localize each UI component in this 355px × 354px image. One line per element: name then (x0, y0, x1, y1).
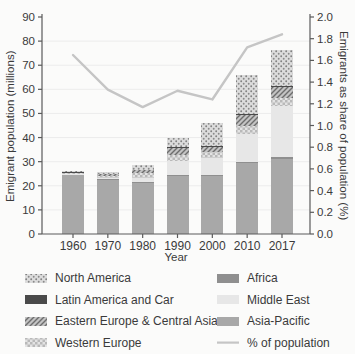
bar-segment (201, 152, 223, 158)
bar-segment (132, 183, 154, 234)
chart-plot-area: 01020304050607080900.00.20.40.60.81.01.2… (0, 0, 355, 270)
legend-label: Asia-Pacific (247, 314, 310, 328)
bar-segment (167, 148, 189, 155)
right-tick-label: 1.2 (317, 98, 333, 110)
right-tick-label: 0.8 (317, 141, 333, 153)
bar-segment (201, 146, 223, 147)
bar-segment (236, 162, 258, 163)
bar-segment (201, 175, 223, 176)
bar-segment (132, 170, 154, 173)
bar-segment (201, 123, 223, 146)
bar-segment (62, 175, 84, 176)
bar-segment (236, 75, 258, 114)
bar-segment (97, 178, 119, 179)
legend-label: Latin America and Car (55, 293, 174, 307)
bar-1980 (132, 165, 154, 234)
bar-segment (167, 176, 189, 234)
bar-segment (97, 180, 119, 234)
bar-segment (271, 106, 293, 157)
legend-item-eastern-europe-central-asia: Eastern Europe & Central Asia (25, 314, 218, 328)
bar-segment (62, 175, 84, 234)
bar-segment (132, 182, 154, 183)
left-tick-label: 90 (22, 11, 35, 23)
bar-segment (97, 174, 119, 176)
bar-2010 (236, 75, 258, 234)
legend-item-africa: Africa (217, 271, 278, 285)
bar-segment (97, 174, 119, 175)
legend-label: Middle East (247, 293, 310, 307)
emigration-figure: 01020304050607080900.00.20.40.60.81.01.2… (0, 0, 355, 354)
bar-segment (271, 157, 293, 159)
bar-1970 (97, 172, 119, 234)
bar-segment (236, 134, 258, 162)
right-tick-label: 1.8 (317, 33, 333, 45)
bar-segment (62, 172, 84, 173)
legend-item-western-europe: Western Europe (25, 336, 142, 350)
bar-segment (236, 115, 258, 126)
bar-segment (271, 50, 293, 86)
bar-segment (97, 172, 119, 174)
legend-label: Eastern Europe & Central Asia (55, 314, 218, 328)
left-tick-label: 60 (22, 83, 35, 95)
right-axis-title: Emigrants as share of population (%) (337, 17, 349, 235)
bar-segment (167, 175, 189, 176)
legend-item-middle-east: Middle East (217, 293, 310, 307)
bar-segment (132, 170, 154, 171)
bar-segment (271, 159, 293, 234)
left-tick-label: 30 (22, 156, 35, 168)
right-tick-label: 0.4 (317, 185, 334, 197)
bar-segment (236, 163, 258, 234)
western-europe-swatch (25, 337, 47, 348)
emigration-chart-svg: 01020304050607080900.00.20.40.60.81.01.2… (0, 0, 355, 266)
right-tick-label: 0.6 (317, 163, 333, 175)
bar-2017 (271, 50, 293, 234)
right-tick-label: 2.0 (317, 11, 333, 23)
legend-item-latin-america-and-car: Latin America and Car (25, 293, 174, 307)
bar-segment (62, 173, 84, 174)
bar-segment (167, 147, 189, 148)
bar-segment (271, 98, 293, 106)
of-population-swatch (217, 337, 239, 348)
left-axis-title: Emigrant population (millions) (5, 17, 17, 235)
right-tick-label: 0.0 (317, 228, 333, 240)
bar-segment (201, 158, 223, 175)
bar-segment (271, 87, 293, 98)
north-america-swatch (25, 273, 47, 284)
latin-america-and-car-swatch (25, 294, 47, 305)
left-tick-label: 80 (22, 35, 35, 47)
left-tick-label: 10 (22, 204, 35, 216)
legend-label: Africa (247, 271, 278, 285)
bar-segment (236, 126, 258, 134)
bar-segment (271, 86, 293, 87)
bar-segment (132, 173, 154, 177)
legend-item-north-america: North America (25, 271, 131, 285)
bar-segment (97, 179, 119, 180)
bar-segment (236, 114, 258, 115)
asia-pacific-swatch (217, 316, 239, 327)
bar-segment (201, 147, 223, 152)
middle-east-swatch (217, 294, 239, 305)
x-axis-title: Year (42, 251, 310, 263)
right-tick-label: 0.2 (317, 206, 333, 218)
bar-segment (62, 173, 84, 174)
legend-item-of-population: % of population (217, 336, 330, 350)
legend-label: % of population (247, 336, 330, 350)
left-tick-label: 20 (22, 180, 35, 192)
bar-segment (62, 171, 84, 172)
legend-label: North America (55, 271, 131, 285)
bar-segment (97, 176, 119, 177)
right-tick-label: 1.6 (317, 54, 333, 66)
left-tick-label: 40 (22, 132, 35, 144)
right-tick-label: 1.0 (317, 120, 333, 132)
bar-1960 (62, 171, 84, 234)
bar-segment (201, 176, 223, 234)
eastern-europe-central-asia-swatch (25, 316, 47, 327)
bar-segment (167, 161, 189, 175)
left-tick-label: 0 (29, 228, 35, 240)
bar-2000 (201, 123, 223, 234)
africa-swatch (217, 273, 239, 284)
bar-segment (132, 178, 154, 182)
bar-segment (167, 155, 189, 161)
bar-segment (62, 174, 84, 175)
left-tick-label: 50 (22, 107, 35, 119)
